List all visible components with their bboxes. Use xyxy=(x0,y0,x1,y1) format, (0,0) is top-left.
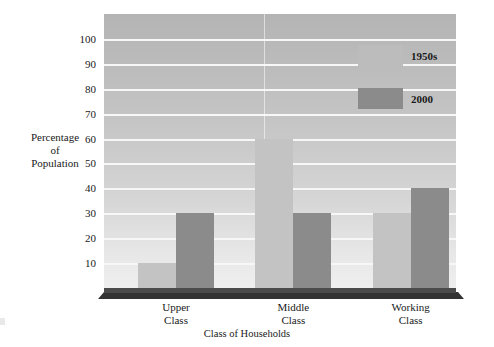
legend-swatch-2000 xyxy=(358,88,403,109)
x-axis-tick-label: MiddleClass xyxy=(238,301,348,327)
x-axis-tick-label-line: Working xyxy=(392,301,430,313)
gridline xyxy=(104,64,456,66)
legend-label-1950s: 1950s xyxy=(411,51,437,62)
gridline xyxy=(104,39,456,41)
y-axis-tick-label: 20 xyxy=(70,233,96,244)
y-axis-tick-label: 100 xyxy=(70,34,96,45)
bar-upper-class-2000 xyxy=(176,213,214,288)
bar-middle-class-1950s xyxy=(255,139,293,288)
y-axis-tick-label: 30 xyxy=(70,208,96,219)
x-axis-tick-label-line: Class xyxy=(356,314,466,327)
y-axis-title-line-2: of xyxy=(50,144,59,156)
y-axis-tick-label: 40 xyxy=(70,183,96,194)
y-axis-title: Percentage of Population xyxy=(16,131,94,170)
bar-chart-figure: 102030405060708090100 Percentage of Popu… xyxy=(0,0,494,347)
y-axis-tick-label: 10 xyxy=(70,258,96,269)
axis-floor-body xyxy=(98,292,464,299)
legend-swatch-1950s xyxy=(358,45,403,66)
axis-floor xyxy=(98,288,464,299)
y-axis-title-line-1: Percentage xyxy=(31,131,79,143)
axis-floor-top xyxy=(104,288,456,293)
bar-working-class-1950s xyxy=(373,213,411,288)
y-axis-tick-label: 90 xyxy=(70,59,96,70)
gridline xyxy=(104,114,456,116)
bar-middle-class-2000 xyxy=(293,213,331,288)
x-axis-tick-label: WorkingClass xyxy=(356,301,466,327)
x-axis-tick-label-line: Class xyxy=(121,314,231,327)
y-axis-title-line-3: Population xyxy=(31,157,79,169)
x-axis-tick-label-line: Upper xyxy=(162,301,190,313)
legend-label-2000: 2000 xyxy=(411,94,433,105)
x-axis-tick-label: UpperClass xyxy=(121,301,231,327)
edge-artifact xyxy=(0,318,5,325)
y-axis-tick-label: 70 xyxy=(70,109,96,120)
x-axis-tick-label-line: Middle xyxy=(277,301,309,313)
gridline xyxy=(104,89,456,91)
x-axis-tick-label-line: Class xyxy=(238,314,348,327)
x-axis-title: Class of Households xyxy=(0,328,494,339)
bar-upper-class-1950s xyxy=(138,263,176,288)
bar-working-class-2000 xyxy=(411,188,449,288)
y-axis-tick-label: 80 xyxy=(70,84,96,95)
plot-area: 1950s 2000 xyxy=(104,14,456,288)
